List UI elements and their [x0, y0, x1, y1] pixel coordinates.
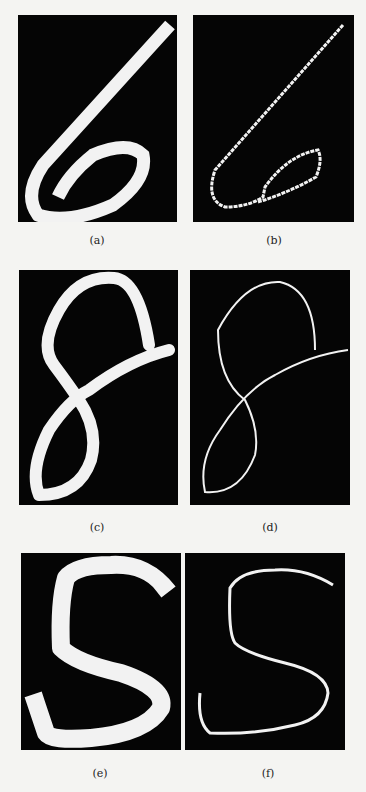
caption-b: (b)	[254, 234, 294, 247]
panel-d-digit-8-skeleton	[190, 270, 350, 505]
panel-f-letter-s-skeleton	[185, 553, 345, 750]
panel-e-letter-s	[21, 553, 181, 750]
panel-a-digit-6	[18, 15, 177, 222]
caption-e: (e)	[80, 767, 120, 780]
panel-c-digit-8	[19, 270, 178, 505]
digit-6-skeleton-image	[193, 15, 354, 222]
digit-8-image	[19, 270, 178, 505]
letter-s-image	[21, 553, 181, 750]
caption-a: (a)	[77, 234, 117, 247]
caption-d: (d)	[250, 521, 290, 534]
letter-s-skeleton-image	[185, 553, 345, 750]
caption-c: (c)	[77, 521, 117, 534]
caption-f: (f)	[248, 767, 288, 780]
digit-8-skeleton-image	[190, 270, 350, 505]
panel-b-digit-6-skeleton	[193, 15, 354, 222]
digit-6-image	[18, 15, 177, 222]
